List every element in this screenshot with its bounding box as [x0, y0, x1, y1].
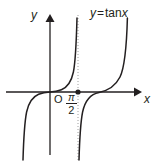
- curve-branch-center: [50, 18, 77, 92]
- equation-equals-sign: =: [96, 6, 105, 20]
- asymptote-tick-label: π 2: [66, 92, 77, 116]
- graph-canvas: [0, 0, 165, 167]
- y-axis-arrowhead-icon: [46, 14, 55, 22]
- asymptote-denominator: 2: [66, 105, 77, 116]
- equation-variable: x: [122, 6, 128, 20]
- curve-branch-left: [23, 92, 50, 160]
- x-axis-label: x: [144, 93, 150, 105]
- x-axis-arrowhead-icon: [134, 88, 142, 97]
- asymptote-numerator: π: [66, 92, 77, 103]
- y-axis-label: y: [31, 9, 37, 21]
- origin-label: O: [54, 94, 63, 105]
- tangent-function-figure: y x O π 2 y=tanx: [0, 0, 165, 167]
- curve-equation-label: y=tanx: [90, 7, 128, 19]
- curve-branch-right: [79, 18, 127, 160]
- equation-function-name: tan: [105, 6, 122, 20]
